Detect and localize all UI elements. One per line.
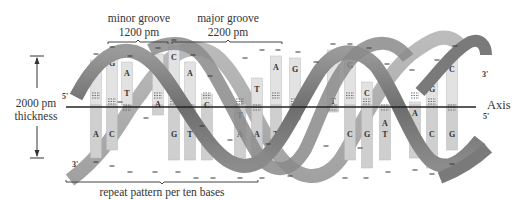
base-letter-top: A bbox=[124, 69, 130, 78]
base-letter-top: C bbox=[364, 89, 370, 98]
major-groove-value: 2200 pm bbox=[208, 26, 249, 39]
three-prime-bottom-left: 3' bbox=[72, 160, 78, 169]
dna-double-helix-diagram: TAGCATTACGATCGTATAATGCATGCCGATATGCCG bbox=[0, 0, 524, 200]
base-letter-top: T bbox=[254, 85, 260, 94]
minor-groove-title: minor groove bbox=[108, 12, 170, 25]
base-pair-CG: CG bbox=[447, 58, 458, 150]
repeat-bracket bbox=[66, 180, 258, 184]
base-letter-bottom: C bbox=[347, 130, 353, 139]
three-prime-top-right: 3' bbox=[482, 70, 488, 79]
base-letter-top: G bbox=[292, 65, 298, 74]
base-letter-bottom: T bbox=[382, 130, 388, 139]
repeat-pattern-label: repeat pattern per ten bases bbox=[99, 186, 224, 199]
base-letter-bottom: G bbox=[364, 130, 370, 139]
base-pair-AT: AT bbox=[122, 62, 133, 110]
minor-groove-value: 1200 pm bbox=[119, 26, 160, 39]
five-prime-bottom-right: 5' bbox=[483, 112, 489, 121]
base-pair-GC: GC bbox=[107, 52, 118, 150]
base-letter-top: A bbox=[382, 119, 388, 128]
thickness-value: 2000 pm bbox=[15, 97, 58, 110]
base-letter-bottom: G bbox=[449, 130, 455, 139]
base-letter-top: A bbox=[273, 63, 279, 72]
five-prime-top-left: 5' bbox=[62, 92, 68, 101]
base-pair-CG: CG bbox=[362, 82, 373, 168]
axis-label: Axis bbox=[487, 99, 511, 112]
base-letter-top: A bbox=[187, 69, 193, 78]
helix-graphic: TAGCATTACGATCGTATAATGCATGCCGATATGCCG bbox=[0, 0, 524, 200]
base-letter-bottom: C bbox=[109, 130, 115, 139]
thickness-title: thickness bbox=[14, 110, 59, 123]
base-letter-bottom: T bbox=[124, 89, 130, 98]
base-letter-top: C bbox=[204, 101, 210, 110]
base-letter-top: A bbox=[412, 109, 418, 118]
base-pair-AT: AT bbox=[380, 105, 391, 160]
major-groove-title: major groove bbox=[197, 12, 259, 25]
base-letter-top: C bbox=[171, 53, 177, 62]
base-letter-bottom: C bbox=[429, 130, 435, 139]
base-letter-bottom: G bbox=[171, 130, 177, 139]
base-letter-bottom: A bbox=[93, 130, 99, 139]
